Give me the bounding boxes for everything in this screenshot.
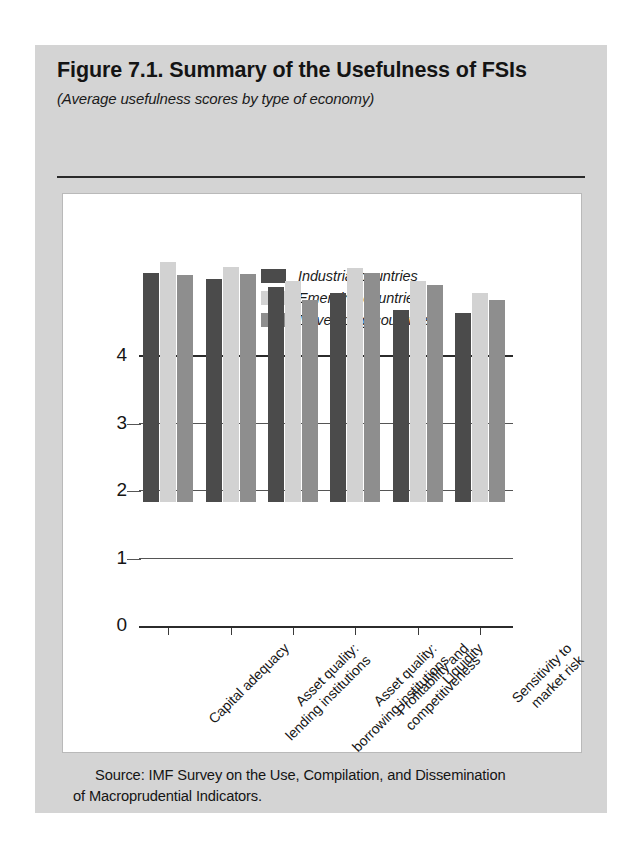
bar-emerging [223,267,239,502]
figure-subtitle: (Average usefulness scores by type of ec… [57,90,577,107]
y-tick-0: 0 [81,626,127,627]
x-axis-labels: Capital adequacyAsset quality:lending in… [139,634,579,752]
y-tick-label: 0 [93,615,127,634]
bar-emerging [285,281,301,502]
chart-card: Industrial countriesEmerging countriesDe… [62,193,582,753]
source-note: Source: IMF Survey on the Use, Compilati… [73,765,583,807]
bar-industrial [393,310,409,502]
bar-developing [427,285,443,502]
bar-industrial [455,313,471,502]
y-tick-4: 4 [81,356,127,357]
figure-title: Figure 7.1. Summary of the Usefulness of… [57,58,577,83]
source-note-line-1: Source: IMF Survey on the Use, Compilati… [73,765,583,786]
y-tick-2: 2 [81,491,127,492]
bar-industrial [206,279,222,502]
y-tick-label: 2 [93,480,127,499]
y-tick-label: 3 [93,413,127,432]
bar-group [393,202,443,502]
bar-developing [240,274,256,502]
bars-layer [139,194,513,628]
bar-group [206,202,256,502]
bar-group [330,202,380,502]
plot-area: 01234 Capital adequacyAsset quality:lend… [63,194,581,752]
bar-group [268,202,318,502]
bar-developing [177,275,193,502]
y-tick-label: 4 [93,345,127,364]
bar-emerging [160,262,176,502]
x-axis-label: Sensitivity tomarket risk [508,640,586,718]
bar-emerging [472,293,488,502]
bar-developing [364,273,380,503]
bar-industrial [330,293,346,502]
bar-industrial [268,287,284,502]
figure-header: Figure 7.1. Summary of the Usefulness of… [57,58,577,107]
figure-panel: Figure 7.1. Summary of the Usefulness of… [35,45,607,813]
bar-developing [302,300,318,503]
y-tick-label: 1 [93,548,127,567]
y-tick-3: 3 [81,424,127,425]
source-note-line-2: of Macroprudential Indicators. [73,786,583,807]
y-tick-1: 1 [81,559,127,560]
header-divider [57,176,585,178]
bar-group [143,202,193,502]
bar-developing [489,300,505,503]
bar-emerging [410,281,426,502]
bar-industrial [143,273,159,503]
bar-emerging [347,268,363,502]
bar-group [455,202,505,502]
x-axis-line [139,626,513,628]
